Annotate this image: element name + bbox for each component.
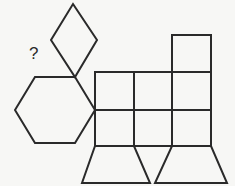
puzzle-figure: ?	[0, 0, 235, 186]
question-mark: ?	[29, 44, 38, 63]
square-r2c1	[95, 110, 134, 146]
square-r2c3	[172, 110, 211, 146]
square-r2c2	[134, 110, 172, 146]
hexagon	[15, 77, 95, 143]
square-r1c1	[95, 72, 134, 110]
trapezoid-right	[155, 146, 227, 183]
square-r1c2	[134, 72, 172, 110]
square-r1c3	[172, 72, 211, 110]
trapezoid-left	[82, 146, 150, 183]
square-top	[172, 35, 211, 72]
rhombus	[51, 4, 97, 77]
